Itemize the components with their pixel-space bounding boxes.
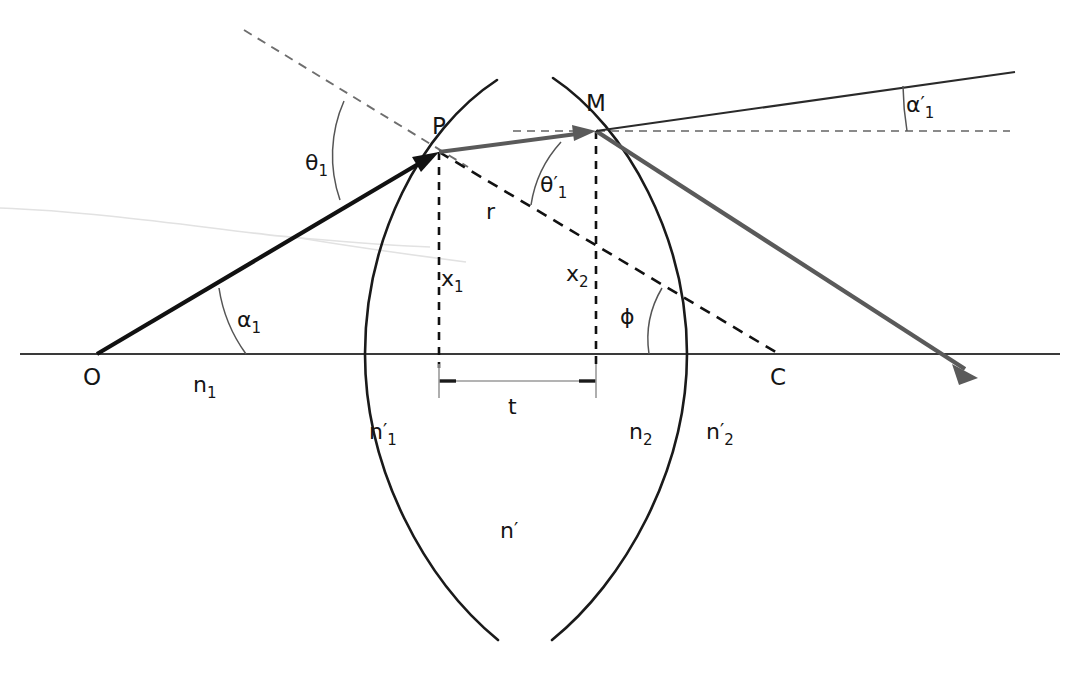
upper-exit-ray-M-upward: [596, 72, 1015, 131]
label-point-O: O: [83, 364, 101, 390]
exit-ray-M-downward: [596, 131, 965, 369]
surface-normal-dashed-line: [244, 30, 468, 167]
phi-angle-arc: [648, 288, 662, 354]
label-angle-theta-1-prime: θ′1: [540, 172, 567, 202]
ray-diagram-figure: O P M C θ1 θ′1 α1 α′1 ϕ n1 n′1 n2 n′2 n′…: [0, 0, 1079, 674]
lens-left-surface-arc: [365, 80, 498, 640]
internal-ray-P-to-M: [439, 133, 584, 152]
label-angle-theta-1: θ1: [305, 150, 328, 180]
scan-smudge-left: [0, 208, 430, 247]
label-index-n2-prime: n′2: [706, 419, 734, 449]
label-dimension-t: t: [508, 394, 517, 419]
lens-right-surface-arc: [552, 78, 687, 640]
label-dimension-x1: x1: [441, 266, 464, 296]
label-dimension-r: r: [486, 199, 496, 224]
label-dimension-x2: x2: [566, 261, 589, 291]
label-index-n-prime: n′: [500, 518, 518, 543]
label-angle-phi: ϕ: [620, 304, 635, 329]
optical-ray-diagram-canvas: O P M C θ1 θ′1 α1 α′1 ϕ n1 n′1 n2 n′2 n′…: [0, 0, 1079, 674]
label-index-n1-prime: n′1: [369, 419, 397, 449]
label-point-M: M: [586, 90, 606, 116]
theta-1-angle-arc: [332, 101, 344, 200]
label-index-n2: n2: [629, 419, 653, 449]
label-point-P: P: [432, 113, 446, 139]
label-angle-alpha-1-prime: α′1: [906, 92, 934, 122]
label-index-n1: n1: [193, 372, 217, 402]
label-angle-alpha-1: α1: [237, 307, 261, 337]
radius-line-P-to-C: [439, 152, 779, 354]
internal-ray-arrowhead: [572, 125, 596, 141]
label-point-C: C: [770, 364, 786, 390]
